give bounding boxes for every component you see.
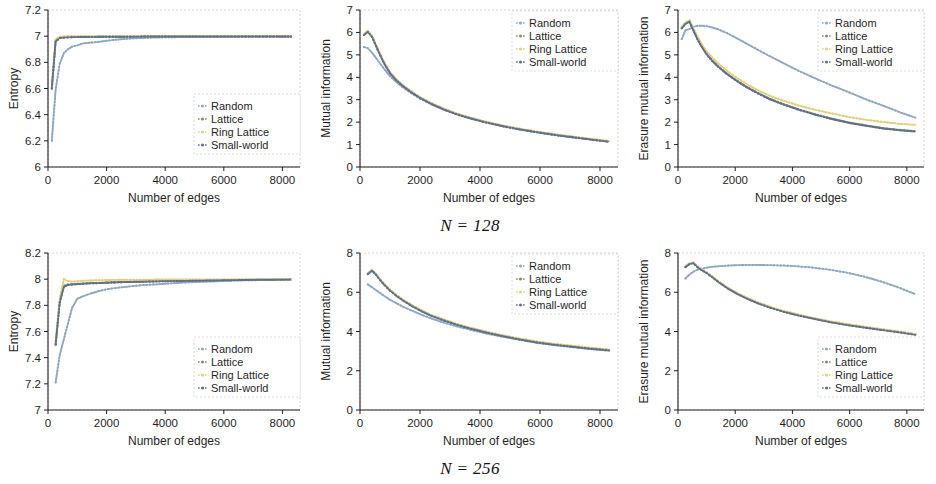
y-tick-label: 7.8	[25, 299, 41, 311]
series-marker	[739, 294, 741, 296]
series-marker	[255, 279, 257, 281]
series-marker	[593, 348, 595, 350]
series-marker	[783, 265, 785, 267]
x-tick-label: 8000	[270, 417, 296, 429]
series-marker	[825, 320, 827, 322]
series-marker	[742, 264, 744, 266]
series-marker	[791, 313, 793, 315]
panel-entropy-n128: 0200040006000800066.26.46.66.877.2Number…	[0, 0, 312, 215]
series-marker	[769, 55, 771, 57]
y-axis-label: Mutual information	[319, 282, 333, 381]
series-marker	[164, 280, 166, 282]
series-marker	[52, 130, 54, 132]
series-marker	[397, 81, 399, 83]
legend-marker	[825, 348, 828, 351]
series-marker	[791, 107, 793, 109]
x-tick-label: 4000	[152, 417, 178, 429]
series-marker	[894, 331, 896, 333]
series-marker	[863, 98, 865, 100]
chart-entropy-n128: 0200040006000800066.26.46.66.877.2Number…	[0, 0, 312, 215]
series-marker	[530, 340, 532, 342]
series-marker	[512, 127, 514, 129]
series-marker	[817, 115, 819, 117]
series-marker	[150, 36, 152, 38]
series-marker	[51, 134, 53, 136]
panel-erasure-mutual-information-n128: 0200040006000800001234567Number of edges…	[630, 0, 936, 215]
y-tick-label: 7.4	[25, 352, 42, 364]
series-marker	[706, 267, 708, 269]
series-marker	[835, 113, 837, 115]
series-marker	[94, 36, 96, 38]
series-marker	[869, 126, 871, 128]
legend-marker	[825, 374, 828, 377]
series-marker	[590, 348, 592, 350]
x-tick-label: 4000	[467, 174, 493, 186]
series-line-ring-lattice	[56, 279, 292, 342]
series-marker	[706, 53, 708, 55]
series-marker	[55, 344, 57, 346]
series-marker	[97, 41, 99, 43]
chart-mutual-information-n128: 0200040006000800001234567Number of edges…	[312, 0, 630, 215]
series-marker	[422, 99, 424, 101]
series-marker	[76, 44, 78, 46]
series-marker	[54, 44, 56, 46]
legend-marker	[519, 61, 522, 64]
series-marker	[164, 283, 166, 285]
series-marker	[711, 60, 713, 62]
series-marker	[126, 279, 128, 281]
series-marker	[55, 337, 57, 339]
series-marker	[100, 41, 102, 43]
series-marker	[711, 57, 713, 59]
series-marker	[749, 88, 751, 90]
series-marker	[542, 342, 544, 344]
series-marker	[794, 314, 796, 316]
series-marker	[161, 279, 163, 281]
panel-erasure-mutual-information-n256: 0200040006000800002468Number of edgesEra…	[630, 243, 936, 458]
series-marker	[126, 38, 128, 40]
legend-label: Ring Lattice	[211, 126, 269, 138]
series-marker	[58, 308, 60, 310]
chart-entropy-n256: 0200040006000800077.27.47.67.888.2Number…	[0, 243, 312, 458]
series-marker	[120, 36, 122, 38]
series-marker	[780, 103, 782, 105]
series-marker	[548, 133, 550, 135]
series-marker	[82, 295, 84, 297]
series-marker	[149, 281, 151, 283]
series-marker	[794, 265, 796, 267]
series-marker	[103, 40, 105, 42]
series-marker	[751, 89, 753, 91]
series-marker	[698, 41, 700, 43]
series-marker	[911, 333, 913, 335]
series-marker	[52, 69, 54, 71]
series-marker	[123, 38, 125, 40]
series-marker	[155, 279, 157, 281]
series-marker	[912, 292, 914, 294]
series-marker	[136, 279, 138, 281]
y-tick-label: 0	[347, 161, 353, 173]
series-marker	[723, 31, 725, 33]
series-marker	[79, 280, 81, 282]
series-marker	[742, 296, 744, 298]
series-marker	[737, 78, 739, 80]
series-marker	[176, 280, 178, 282]
panel-mutual-information-n256: 0200040006000800002468Number of edgesMut…	[312, 243, 630, 458]
series-marker	[369, 34, 371, 36]
y-tick-label: 7	[665, 4, 671, 16]
series-marker	[900, 129, 902, 131]
series-marker	[188, 280, 190, 282]
series-marker	[58, 311, 60, 313]
legend-marker	[201, 348, 204, 351]
series-marker	[375, 45, 377, 47]
series-marker	[862, 124, 864, 126]
series-marker	[202, 35, 204, 37]
series-marker	[832, 269, 834, 271]
series-marker	[144, 36, 146, 38]
series-marker	[693, 271, 695, 273]
series-marker	[719, 282, 721, 284]
series-marker	[809, 112, 811, 114]
series-marker	[373, 288, 375, 290]
series-marker	[794, 108, 796, 110]
series-marker	[181, 36, 183, 38]
series-marker	[872, 278, 874, 280]
series-marker	[797, 109, 799, 111]
